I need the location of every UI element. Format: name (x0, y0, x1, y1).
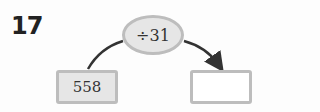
arrow-in-icon (88, 41, 123, 69)
input-box: 558 (56, 70, 118, 104)
input-value: 558 (73, 78, 102, 96)
operation-label: ÷31 (136, 26, 170, 45)
arrow-out-icon (184, 41, 218, 64)
operation-oval: ÷31 (122, 15, 184, 55)
answer-box[interactable] (190, 70, 252, 104)
